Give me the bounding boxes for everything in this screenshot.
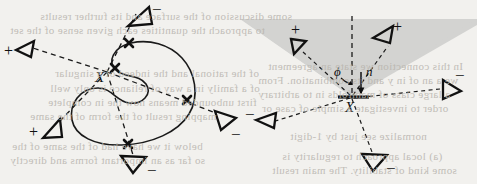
bleed-through-line: some discussion of the surface and its f…	[40, 10, 292, 22]
bleed-through-line: order to investigate a simple of case or	[262, 102, 448, 114]
arrowhead-outside-left-minus	[256, 113, 276, 128]
bleed-through-line: (a) local approach to regularity is	[282, 150, 442, 162]
sign-lower-left-plus: +	[29, 123, 38, 140]
bleed-through-line: of a family in a way of reliance is only…	[50, 82, 260, 94]
sign-inside-right-plus: +	[393, 18, 402, 35]
bleed-through-line: first unbounded means now the in complet…	[48, 96, 257, 108]
figure-container: some discussion of the surface and its f…	[0, 0, 477, 184]
bleed-through-line: mapping result of the form of the same	[30, 110, 217, 122]
bleed-through-line: to approach the quantities each given se…	[10, 24, 265, 36]
bleed-through-line: of the rational and the indeed of a sing…	[55, 67, 259, 79]
bleed-through-line: some kind of stability. The main result	[272, 164, 457, 176]
bleed-through-line: a large class of manifolds in to arbitra…	[258, 88, 450, 100]
bleed-through-line: In this connection we state an agreement	[268, 60, 463, 72]
bleed-through-line: below it we have had of the same of the	[12, 140, 203, 152]
arrowhead-upper-left-plus	[16, 41, 34, 57]
sign-inside-left-plus: +	[291, 21, 300, 38]
bleed-through-line: we a an of in y and its combination. Fro…	[258, 74, 458, 86]
sign-upper-left-plus: +	[4, 42, 13, 59]
sign-right-minus: −	[231, 125, 241, 144]
bleed-through-line: so far as an important forms and directl…	[10, 154, 205, 166]
bleed-through-line: normalize see just by 1-digit	[290, 130, 427, 142]
